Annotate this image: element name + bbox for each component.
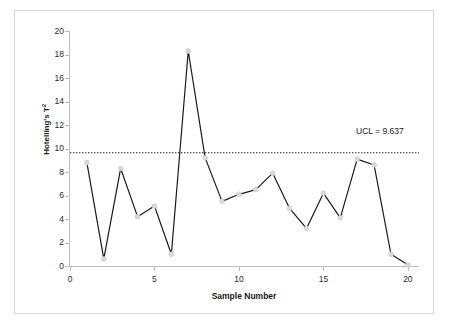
data-point-marker [220, 199, 225, 204]
data-point-marker [84, 160, 89, 165]
data-point-marker [338, 215, 343, 220]
data-point-marker [253, 187, 258, 192]
series-layer [0, 0, 449, 329]
data-point-marker [203, 156, 208, 161]
data-point-marker [355, 157, 360, 162]
data-point-marker [372, 163, 377, 168]
data-point-marker [270, 171, 275, 176]
data-point-marker [118, 166, 123, 171]
data-point-marker [152, 204, 157, 209]
data-point-marker [304, 226, 309, 231]
data-point-marker [405, 262, 410, 267]
data-point-marker [237, 192, 242, 197]
data-point-marker [169, 252, 174, 257]
data-point-marker [101, 257, 106, 262]
data-point-marker [135, 214, 140, 219]
data-point-markers [84, 49, 410, 268]
data-point-marker [186, 49, 191, 54]
data-point-marker [321, 191, 326, 196]
data-line [87, 51, 408, 265]
chart-figure: 02468101214161820 05101520 Hotelling's T… [0, 0, 449, 329]
data-point-marker [389, 252, 394, 257]
data-point-marker [287, 206, 292, 211]
